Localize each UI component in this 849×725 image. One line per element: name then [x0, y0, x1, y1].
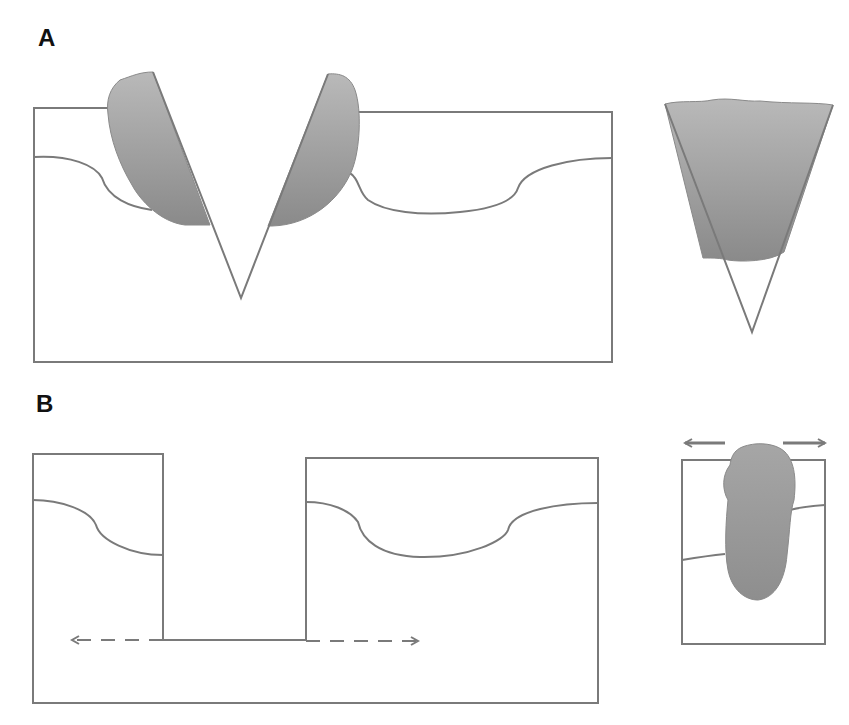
- tissue-layer-right-a: [348, 158, 612, 214]
- tissue-layer-left-b: [33, 500, 163, 555]
- block-outline-b: [33, 454, 598, 703]
- diagram-canvas: [0, 0, 849, 725]
- panel-a-inset: [665, 99, 833, 332]
- inset-shaded-mass-b: [724, 444, 795, 600]
- inset-shaded-mass-a: [665, 99, 833, 261]
- shaded-mass-right-a: [268, 74, 359, 226]
- panel-b-inset: [682, 444, 825, 644]
- tissue-layer-right-b: [306, 502, 598, 557]
- panel-b-main-block: [33, 454, 598, 703]
